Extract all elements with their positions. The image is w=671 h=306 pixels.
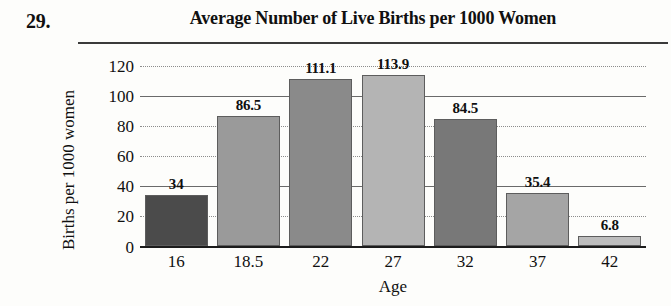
y-axis-tick: 0 [74,238,134,258]
y-axis-tick: 100 [74,87,134,107]
y-axis-tick: 120 [74,57,134,77]
title-divider [78,42,668,44]
x-axis-tick: 27 [385,252,402,272]
bar-group: 84.532 [434,66,497,246]
bar-value-label: 86.5 [236,97,261,114]
gridline: 0 [140,246,646,248]
x-axis-tick: 42 [601,252,618,272]
bar-group: 6.842 [578,66,641,246]
question-number: 29. [26,10,50,33]
bar [289,79,352,246]
bar-value-label: 84.5 [453,100,478,117]
bar [506,193,569,246]
y-axis-tick: 20 [74,207,134,227]
bar [145,195,208,246]
bar-group: 86.518.5 [217,66,280,246]
bar-value-label: 34 [169,176,184,193]
x-axis-tick: 18.5 [234,252,264,272]
bar-value-label: 35.4 [525,174,550,191]
y-axis-tick: 80 [74,117,134,137]
bar-series: 341686.518.5111.122113.92784.53235.4376.… [140,66,646,246]
bar-group: 113.927 [362,66,425,246]
bar [362,75,425,246]
x-axis-label: Age [140,277,646,297]
x-axis-tick: 32 [457,252,474,272]
y-axis-tick: 60 [74,147,134,167]
x-axis-tick: 16 [168,252,185,272]
bar [434,119,497,246]
bar-value-label: 6.8 [601,217,619,234]
x-axis-tick: 22 [312,252,329,272]
x-axis-tick: 37 [529,252,546,272]
chart-title: Average Number of Live Births per 1000 W… [78,8,668,29]
bar-value-label: 111.1 [305,60,336,77]
bar [217,116,280,246]
bar-group: 35.437 [506,66,569,246]
bar [578,236,641,246]
chart-figure: 29. Average Number of Live Births per 10… [0,0,671,306]
y-axis-tick: 40 [74,177,134,197]
bar-value-label: 113.9 [377,56,409,73]
bar-group: 3416 [145,66,208,246]
bar-group: 111.122 [289,66,352,246]
plot-area: 020406080100120 341686.518.5111.122113.9… [140,66,646,246]
